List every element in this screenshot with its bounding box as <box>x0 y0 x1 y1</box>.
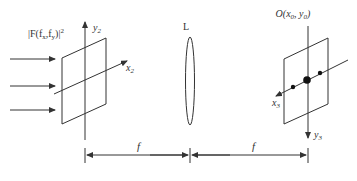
origin-label: O(x0, y0) <box>276 8 311 21</box>
focal-length-label: f <box>137 140 142 152</box>
y2-axis-label: y2 <box>92 22 101 35</box>
side-spot-icon <box>291 85 295 89</box>
distance-markers: f f <box>85 140 308 163</box>
input-intensity-label: |F(fx,fy)|2 <box>28 27 64 41</box>
side-spot-icon <box>318 71 322 75</box>
focal-length-label: f <box>252 140 257 152</box>
incident-rays <box>10 59 55 110</box>
optical-system-diagram: |F(fx,fy)|2 y2 x2 L O(x0, y0) x3 y3 <box>0 0 357 181</box>
output-plane: O(x0, y0) x3 y3 <box>271 8 348 142</box>
y3-axis-label: y3 <box>313 129 322 142</box>
x2-axis-label: x2 <box>125 62 134 75</box>
x2-axis <box>54 61 127 94</box>
input-plane: y2 x2 <box>54 22 134 140</box>
x3-axis-label: x3 <box>271 97 280 110</box>
lens: L <box>183 21 195 125</box>
lens-label: L <box>183 21 189 32</box>
central-spot-icon <box>303 76 311 84</box>
lens-icon <box>186 37 195 125</box>
x3-axis <box>276 60 348 96</box>
